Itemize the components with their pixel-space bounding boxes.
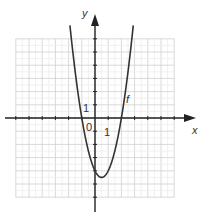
series-f-label: f [126, 93, 130, 105]
y-axis-arrow [91, 14, 99, 26]
origin-label: 0 [86, 121, 92, 133]
y-axis-label: y [81, 7, 89, 19]
function-graph: y x 0 1 1 f [0, 0, 210, 218]
y-tick-label-1: 1 [83, 102, 89, 114]
x-axis-arrow [184, 114, 196, 122]
x-tick-label-1: 1 [104, 126, 110, 138]
x-axis-label: x [191, 124, 198, 136]
